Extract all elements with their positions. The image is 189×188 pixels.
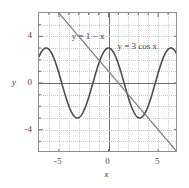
x-tick-label-neg5: -5	[54, 157, 62, 166]
plot-area	[38, 12, 177, 152]
linear-curve	[49, 13, 177, 152]
cosine-equation-label: y = 3 cos x	[117, 41, 157, 51]
chart-figure: 4 0 -4 -5 0 5 y x y = 1 − x y = 3 cos x	[0, 0, 189, 188]
x-tick-label-0: 0	[105, 157, 110, 166]
line-equation-label: y = 1 − x	[72, 31, 105, 41]
x-tick-label-5: 5	[155, 157, 160, 166]
figure-screenshot: 4 0 -4 -5 0 5 y x y = 1 − x y = 3 cos x	[0, 0, 189, 188]
y-tick-label-neg4: -4	[6, 124, 32, 133]
y-tick-label-4: 4	[6, 31, 32, 40]
cosine-curve	[39, 48, 177, 118]
y-axis-label: y	[12, 78, 16, 87]
curve-layer	[39, 13, 177, 152]
y-tick-label-0: 0	[6, 78, 32, 87]
x-axis-label: x	[105, 170, 109, 179]
